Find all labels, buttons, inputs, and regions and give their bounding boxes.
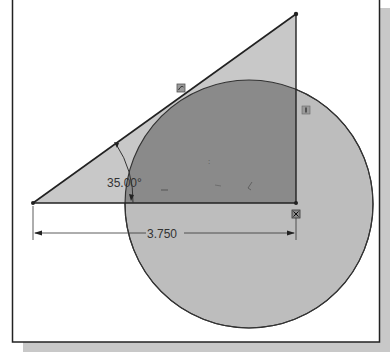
frame-shadow-right	[380, 8, 390, 352]
vertex-left[interactable]	[31, 201, 35, 205]
length-dimension-label[interactable]: 3.750	[147, 227, 177, 241]
inference-mark: :	[208, 157, 210, 166]
vertex-right[interactable]	[294, 201, 298, 205]
coincident-relation-icon[interactable]	[292, 210, 300, 218]
sketch-canvas[interactable]: 35.00° 3.750 :	[0, 0, 390, 352]
tangent-relation-icon[interactable]	[177, 84, 185, 92]
vertical-relation-icon[interactable]	[302, 106, 310, 114]
frame-shadow-bottom	[23, 342, 390, 352]
vertex-top[interactable]	[294, 12, 298, 16]
angle-dimension-label[interactable]: 35.00°	[107, 176, 142, 190]
